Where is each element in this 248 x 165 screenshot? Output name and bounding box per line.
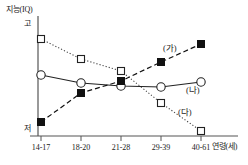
chart-canvas [0,0,248,165]
y-axis-tick-low: 저 [24,122,31,133]
x-axis-tick-0: 14-17 [19,143,63,152]
y-axis-tick-high: 고 [24,17,31,28]
series-label-na: (나) [186,83,200,95]
series-label-ga: (가) [163,41,177,53]
x-axis-tick-4: 40-61 [179,143,223,152]
x-axis-tick-3: 29-39 [139,143,183,152]
x-axis-tick-2: 21-28 [99,143,143,152]
x-axis-tick-1: 18-20 [59,143,103,152]
x-axis-ticks [41,136,201,141]
series-label-da: (다) [178,105,192,117]
y-axis-title: 지능(IQ) [6,3,33,14]
intelligence-age-chart: 지능(IQ) 연령(세) 고 저 14-17 18-20 21-28 29-39… [0,0,248,165]
